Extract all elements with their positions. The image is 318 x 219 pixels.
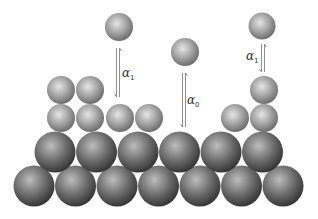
free-atom-left	[105, 13, 133, 41]
arrow-alpha1-left	[115, 48, 122, 97]
right-island-adatoms	[221, 76, 278, 132]
label-alpha1-left: α1	[122, 66, 135, 82]
arrow-alpha1-right	[260, 44, 267, 72]
free-atom-center	[171, 38, 199, 66]
label-alpha0-center: α0	[187, 93, 200, 109]
label-alpha1-right: α1	[246, 49, 259, 65]
left-island-adatoms	[47, 76, 163, 132]
adsorption-diagram: α1 α0 α1	[0, 0, 318, 219]
free-atom-right	[249, 13, 276, 40]
